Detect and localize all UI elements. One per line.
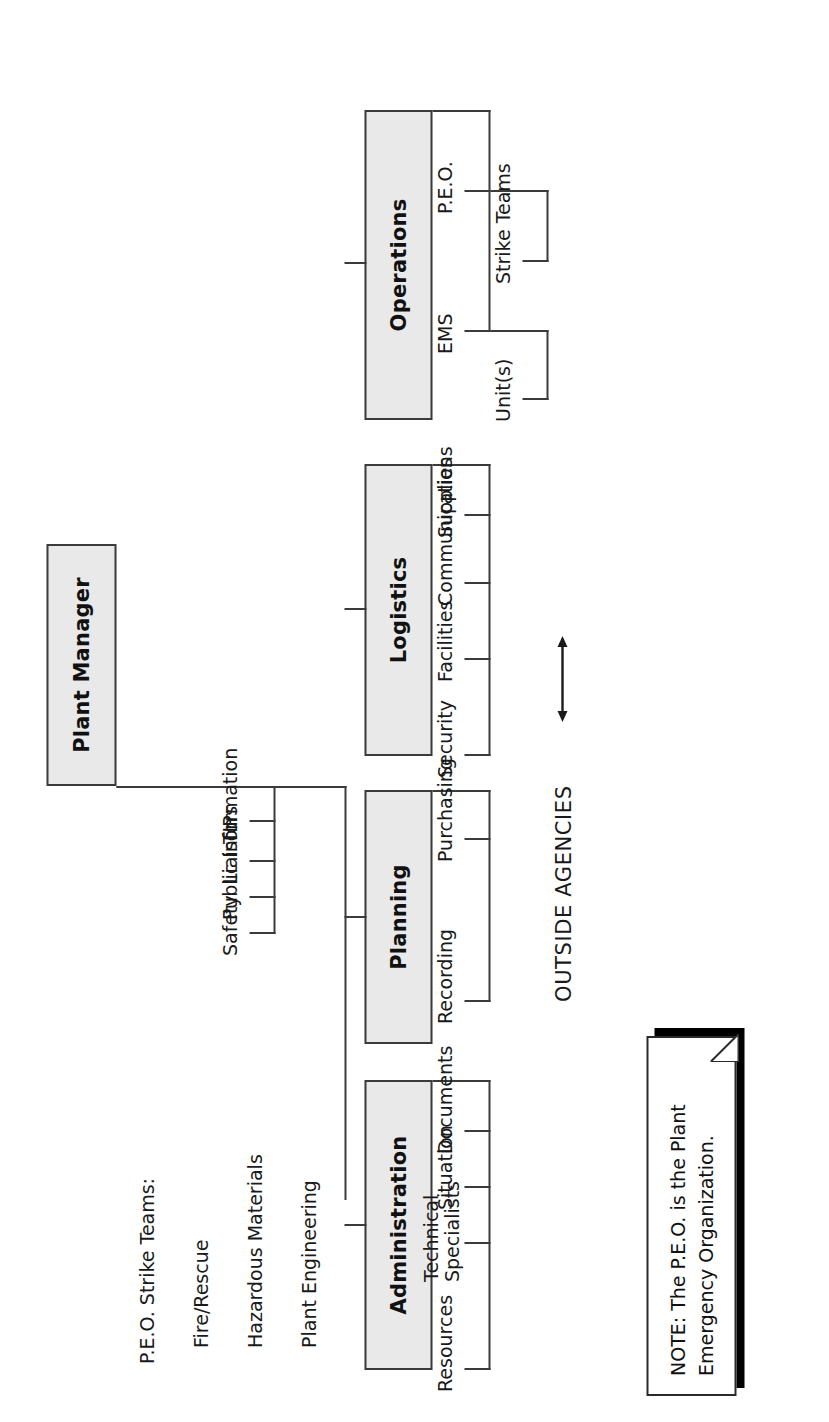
planning-stem-purchasing [464, 838, 490, 840]
note-card-fold-icon [710, 1034, 738, 1062]
staff-stem-tips [249, 820, 275, 822]
logistics-bus-endcap [464, 754, 490, 756]
units-endcap [522, 398, 548, 400]
node-administration-label: Administration [386, 1136, 410, 1315]
logistics-stem-communications [464, 582, 490, 584]
branch-riser-operations [344, 262, 366, 264]
legend-title: P.E.O. Strike Teams: [133, 1034, 160, 1364]
operations-child-label-peo: P.E.O. [434, 161, 455, 214]
peo-to-strike-teams-connector [546, 190, 548, 262]
staff-bus-riser [116, 786, 275, 788]
legend-strike-teams: P.E.O. Strike Teams: Fire/Rescue Hazardo… [106, 1034, 349, 1364]
legend-item-hazardous-materials: Hazardous Materials [241, 1034, 268, 1364]
ems-to-units-connector [546, 330, 548, 400]
operations-child-label-ems: EMS [434, 314, 455, 354]
logistics-child-label-security: Security [434, 700, 455, 778]
operations-grandchild-label-strike-teams: Strike Teams [492, 163, 513, 284]
planning-children-bus [488, 790, 490, 1002]
branch-riser-logistics [344, 608, 366, 610]
node-operations[interactable]: Operations [364, 110, 432, 420]
node-planning[interactable]: Planning [364, 790, 432, 1044]
administration-bus-endcap [464, 1368, 490, 1370]
operations-bus-endcap-ems [464, 330, 490, 332]
branch-riser-planning [344, 916, 366, 918]
node-plant-manager-label: Plant Manager [69, 577, 93, 752]
legend-item-plant-engineering: Plant Engineering [295, 1034, 322, 1364]
operations-bus-riser [432, 110, 490, 112]
technical-specialists-line1: Technical [419, 1195, 441, 1282]
staff-label-public-information: Public Information [219, 748, 240, 920]
node-logistics[interactable]: Logistics [364, 464, 432, 756]
org-chart-canvas: Plant Manager TIPs Liaison Public Inform… [0, 0, 829, 1422]
logistics-child-label-communications: Communications [434, 446, 455, 606]
operations-children-bus [488, 110, 490, 332]
strike-teams-endcap [522, 260, 548, 262]
technical-specialists-line2: Specialists [440, 1181, 462, 1282]
logistics-stem-supplies [464, 514, 490, 516]
administration-stem-documents [464, 1130, 490, 1132]
staff-stem-public-information [249, 896, 275, 898]
outside-agencies-label: OUTSIDE AGENCIES [552, 785, 576, 1002]
administration-stem-situation [464, 1186, 490, 1188]
ems-connector-riser [490, 330, 548, 332]
node-planning-label: Planning [386, 864, 410, 969]
staff-bus-endcap [249, 932, 275, 934]
node-operations-label: Operations [386, 199, 410, 332]
note-line-2: Emergency Organization. [692, 1056, 720, 1376]
administration-child-label-technical-specialists: Technical Specialists [420, 1181, 463, 1282]
logistics-child-label-facilities: Facilities [434, 601, 455, 682]
staff-stem-liaison [249, 860, 275, 862]
logistics-stem-facilities [464, 658, 490, 660]
note-line-1: NOTE: The P.E.O. is the Plant [664, 1056, 692, 1376]
planning-child-label-recording: Recording [434, 929, 455, 1024]
operations-grandchild-label-units: Unit(s) [492, 359, 513, 422]
node-plant-manager[interactable]: Plant Manager [46, 544, 116, 786]
administration-child-label-resources: Resources [434, 1295, 455, 1392]
staff-label-safety: Safety [219, 895, 240, 956]
logistics-children-bus [488, 464, 490, 756]
legend-item-fire-rescue: Fire/Rescue [187, 1034, 214, 1364]
note-card: NOTE: The P.E.O. is the Plant Emergency … [646, 1036, 736, 1396]
outside-agencies-double-arrow [548, 636, 576, 722]
administration-children-bus [488, 1080, 490, 1370]
node-logistics-label: Logistics [386, 557, 410, 664]
administration-stem-technical-specialists [464, 1242, 490, 1244]
operations-stem-peo [464, 190, 490, 192]
planning-bus-endcap [464, 1000, 490, 1002]
